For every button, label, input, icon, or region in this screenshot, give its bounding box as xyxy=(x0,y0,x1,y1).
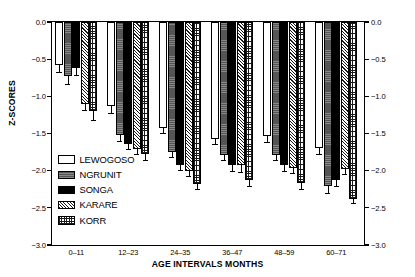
y-tick-right xyxy=(365,170,369,171)
bar-lewogoso xyxy=(211,22,219,139)
y-tick-left xyxy=(47,96,51,97)
error-bar-stem xyxy=(59,65,60,72)
bar-songa xyxy=(332,22,340,180)
error-bar-cap xyxy=(160,133,165,134)
bar-korr xyxy=(141,22,149,154)
bar-lewogoso xyxy=(263,22,271,136)
bar-songa xyxy=(176,22,184,165)
bar-lewogoso xyxy=(315,22,323,148)
bar-lewogoso xyxy=(159,22,167,128)
legend-label: NGRUNIT xyxy=(80,170,122,179)
y-tick-right xyxy=(365,133,369,134)
error-bar-stem xyxy=(85,104,86,111)
x-axis-title: AGE INTERVALS MONTHS xyxy=(0,259,415,269)
axis-bottom-spine xyxy=(52,245,365,246)
y-tick-left xyxy=(47,133,51,134)
bar-karare xyxy=(185,22,193,171)
bar-ngrunit xyxy=(220,22,228,155)
error-bar-cap xyxy=(342,174,347,175)
error-bar-cap xyxy=(247,186,252,187)
bar-korr xyxy=(297,22,305,183)
x-tick-label: 12–23 xyxy=(98,248,158,257)
error-bar-cap xyxy=(351,203,356,204)
y-tick-label-right: −2.5 xyxy=(371,204,386,213)
error-bar-cap xyxy=(56,72,61,73)
y-tick-label-right: 0.0 xyxy=(371,18,381,27)
legend-item-karare[interactable]: KARARE xyxy=(58,198,134,213)
error-bar-cap xyxy=(230,171,235,172)
error-bar-stem xyxy=(76,68,77,75)
bar-korr xyxy=(89,22,97,111)
y-tick-left xyxy=(47,244,51,245)
error-bar-stem xyxy=(111,106,112,113)
error-bar-cap xyxy=(316,154,321,155)
error-bar-cap xyxy=(186,176,191,177)
error-bar-cap xyxy=(126,149,131,150)
bar-korr xyxy=(245,22,253,180)
error-bar-cap xyxy=(178,170,183,171)
error-bar-stem xyxy=(93,111,94,120)
error-bar-cap xyxy=(169,157,174,158)
x-tick-label: 36–47 xyxy=(202,248,262,257)
bar-songa xyxy=(124,22,132,144)
y-tick-label-right: −0.5 xyxy=(371,55,386,64)
error-bar-cap xyxy=(282,171,287,172)
legend-item-songa[interactable]: SONGA xyxy=(58,182,134,197)
chart-legend: LEWOGOSONGRUNITSONGAKARAREKORR xyxy=(58,152,134,228)
legend-item-lewogoso[interactable]: LEWOGOSO xyxy=(58,152,134,167)
bar-ngrunit xyxy=(272,22,280,155)
bar-ngrunit xyxy=(64,22,72,76)
error-bar-cap xyxy=(74,75,79,76)
x-tick-label: 0–11 xyxy=(46,248,106,257)
error-bar-cap xyxy=(82,110,87,111)
y-tick-label-left: 0.0 xyxy=(36,18,46,27)
bar-ngrunit xyxy=(168,22,176,152)
y-tick-right xyxy=(365,59,369,60)
error-bar-cap xyxy=(108,113,113,114)
error-bar-cap xyxy=(264,142,269,143)
error-bar-stem xyxy=(328,186,329,193)
y-tick-right xyxy=(365,21,369,22)
error-bar-cap xyxy=(91,120,96,121)
bar-korr xyxy=(193,22,201,184)
x-tick-label: 24–35 xyxy=(150,248,210,257)
error-bar-cap xyxy=(299,189,304,190)
error-bar-stem xyxy=(241,165,242,172)
bar-group xyxy=(263,22,305,245)
legend-swatch-korr xyxy=(58,216,75,225)
y-tick-left xyxy=(47,21,51,22)
error-bar-cap xyxy=(221,160,226,161)
bar-songa xyxy=(228,22,236,165)
y-tick-label-right: −1.0 xyxy=(371,92,386,101)
legend-item-ngrunit[interactable]: NGRUNIT xyxy=(58,167,134,182)
y-tick-label-right: −1.5 xyxy=(371,129,386,138)
bar-karare xyxy=(81,22,89,104)
x-tick-label: 48–59 xyxy=(254,248,314,257)
bar-group xyxy=(211,22,253,245)
bar-karare xyxy=(133,22,141,149)
y-tick-label-left: −3.0 xyxy=(31,241,46,250)
y-axis-title: Z-SCORES xyxy=(7,55,17,151)
legend-item-korr[interactable]: KORR xyxy=(58,213,134,228)
y-tick-left xyxy=(47,207,51,208)
legend-swatch-ngrunit xyxy=(58,171,75,180)
legend-label: LEWOGOSO xyxy=(80,155,135,164)
legend-label: KORR xyxy=(80,216,107,225)
y-tick-label-right: −2.0 xyxy=(371,166,386,175)
bar-lewogoso xyxy=(107,22,115,106)
y-tick-left xyxy=(47,59,51,60)
chart-figure: 0.0−0.5−1.0−1.5−2.0−2.5−3.0 0.0−0.5−1.0−… xyxy=(0,0,415,277)
y-tick-label-left: −0.5 xyxy=(31,55,46,64)
y-tick-label-left: −1.5 xyxy=(31,129,46,138)
error-bar-cap xyxy=(117,141,122,142)
legend-swatch-karare xyxy=(58,201,75,210)
bar-songa xyxy=(280,22,288,165)
bar-karare xyxy=(341,22,349,169)
error-bar-cap xyxy=(212,144,217,145)
bar-ngrunit xyxy=(116,22,124,135)
legend-swatch-songa xyxy=(58,186,75,195)
error-bar-cap xyxy=(325,193,330,194)
bar-karare xyxy=(289,22,297,168)
error-bar-cap xyxy=(143,160,148,161)
error-bar-cap xyxy=(290,173,295,174)
